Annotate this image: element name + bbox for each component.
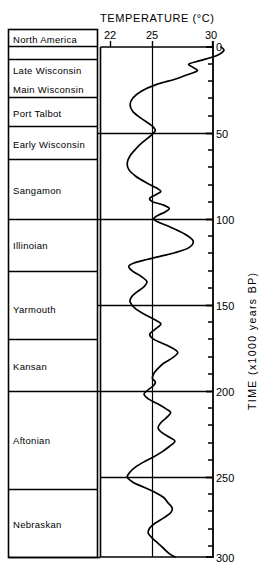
x-tick-label-22: 22: [104, 29, 116, 41]
y-tick-label-100: 100: [216, 214, 234, 226]
strat-label-nebraskan: Nebraskan: [13, 519, 62, 530]
strat-label-aftonian: Aftonian: [13, 435, 50, 446]
x-tick-label-30: 30: [205, 29, 217, 41]
strat-label-early-wisconsin: Early Wisconsin: [13, 139, 85, 150]
strat-label-main-wisconsin: Main Wisconsin: [13, 84, 84, 95]
y-tick-label-250: 250: [216, 472, 234, 484]
y-tick-label-150: 150: [216, 300, 234, 312]
climate-stratigraphy-chart: TEMPERATURE (°C) 22 25 30: [0, 0, 270, 582]
x-axis-ticks: [111, 41, 213, 47]
figure-container: TEMPERATURE (°C) 22 25 30: [0, 0, 270, 582]
chart-title: TEMPERATURE (°C): [100, 12, 215, 24]
x-axis-tick-labels: 22 25 30: [104, 29, 217, 41]
x-tick-label-25: 25: [146, 29, 158, 41]
strat-label-kansan: Kansan: [13, 361, 47, 372]
y-axis-tick-labels: 0 50 100 150 200 250 300: [216, 41, 234, 564]
strat-label-illinoian: Illinoian: [13, 240, 48, 251]
strat-label-yarmouth: Yarmouth: [13, 304, 56, 315]
strat-header-north-america: North America: [13, 34, 78, 45]
y-tick-label-300: 300: [216, 552, 234, 564]
strat-label-late-wisconsin: Late Wisconsin: [13, 65, 82, 76]
stratigraphic-unit-labels: North America Late Wisconsin Main Wiscon…: [13, 34, 85, 530]
strat-label-sangamon: Sangamon: [13, 185, 61, 196]
correlation-tie-lines: [98, 134, 214, 478]
y-tick-label-200: 200: [216, 386, 234, 398]
y-axis-title: TIME (x1000 years BP): [246, 271, 258, 410]
y-tick-label-50: 50: [216, 128, 228, 140]
y-axis-ticks: [206, 47, 213, 557]
strat-label-port-talbot: Port Talbot: [13, 108, 62, 119]
temperature-curve: [127, 47, 224, 557]
